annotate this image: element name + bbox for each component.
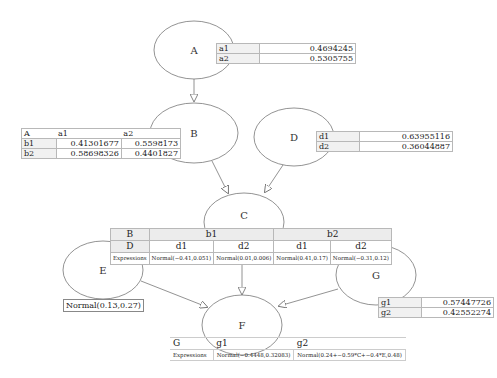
table-header-row: B b1 b2 <box>111 229 392 241</box>
table-header-row: A a1 a2 <box>22 129 181 139</box>
probability-value: 0.4401827 <box>121 149 180 159</box>
column-header: a1 <box>56 129 121 139</box>
state-label: b1 <box>22 139 57 149</box>
state-label: d2 <box>317 142 360 152</box>
expression-value: Normal(−0.41,0.051) <box>149 253 214 265</box>
table-row: d1 0.63955116 <box>317 132 453 142</box>
parent-label: G <box>170 338 213 350</box>
probability-value: 0.58698326 <box>56 149 121 159</box>
expression-value: Normal(0.01,0.006) <box>214 253 274 265</box>
node-G-label: G <box>372 270 380 281</box>
node-B-label: B <box>190 128 197 139</box>
table-row: d2 0.36044887 <box>317 142 453 152</box>
column-header: b2 <box>274 229 392 241</box>
table-row: Expressions Normal(−0.4448,0.32083) Norm… <box>170 350 406 361</box>
probability-value: 0.5305755 <box>260 54 356 64</box>
state-label: a2 <box>217 54 260 64</box>
probability-value: 0.36044887 <box>360 142 453 152</box>
edge-D-C <box>265 165 283 192</box>
state-label: b2 <box>22 149 57 159</box>
column-header: d1 <box>149 241 214 253</box>
expression-value: Normal(−0.31,0.12) <box>330 253 391 265</box>
table-row: a1 0.4694245 <box>217 44 356 54</box>
node-D-label: D <box>290 132 298 143</box>
cpt-table-C: B b1 b2 D d1 d2 d1 d2 Expressions Normal… <box>110 228 392 265</box>
table-row: b1 0.41301677 0.5598173 <box>22 139 181 149</box>
probability-value: 0.42552274 <box>422 308 494 318</box>
table-header-row: G g1 g2 <box>170 338 406 350</box>
state-label: g1 <box>379 298 422 308</box>
expression-box-E: Normal(0.13,0.27) <box>63 299 144 312</box>
column-header: g2 <box>294 338 406 350</box>
node-A-label: A <box>190 45 197 56</box>
state-label: d1 <box>317 132 360 142</box>
node-F-label: F <box>239 320 246 331</box>
probability-value: 0.63955116 <box>360 132 453 142</box>
cpt-table-D: d1 0.63955116 d2 0.36044887 <box>316 131 453 152</box>
edge-E-F <box>141 281 207 307</box>
table-row: g1 0.57447726 <box>379 298 494 308</box>
parent-label: B <box>111 229 150 241</box>
table-row: b2 0.58698326 0.4401827 <box>22 149 181 159</box>
parent-label: A <box>22 129 57 139</box>
column-header: g1 <box>213 338 294 350</box>
probability-value: 0.41301677 <box>56 139 121 149</box>
table-header-row: D d1 d2 d1 d2 <box>111 241 392 253</box>
node-E-label: E <box>99 265 106 276</box>
expressions-label: Expressions <box>170 350 213 361</box>
node-C-label: C <box>240 210 248 221</box>
parent-label: D <box>111 241 150 253</box>
edge-B-C <box>212 161 228 193</box>
cpt-table-A: a1 0.4694245 a2 0.5305755 <box>216 43 356 64</box>
column-header: a2 <box>121 129 180 139</box>
table-row: g2 0.42552274 <box>379 308 494 318</box>
column-header: d2 <box>214 241 274 253</box>
column-header: d1 <box>274 241 331 253</box>
cpt-table-G: g1 0.57447726 g2 0.42552274 <box>378 297 494 318</box>
probability-value: 0.4694245 <box>260 44 356 54</box>
table-row: Expressions Normal(−0.41,0.051) Normal(0… <box>111 253 392 265</box>
probability-value: 0.5598173 <box>121 139 180 149</box>
expression-value: Normal(0.24+−0.59*C+−0.4*E,0.48) <box>294 350 406 361</box>
state-label: a1 <box>217 44 260 54</box>
expressions-label: Expressions <box>111 253 150 265</box>
edge-G-F <box>279 289 338 306</box>
expression-value: Normal(0.41,0.17) <box>274 253 331 265</box>
probability-value: 0.57447726 <box>422 298 494 308</box>
table-row: a2 0.5305755 <box>217 54 356 64</box>
column-header: b1 <box>149 229 274 241</box>
state-label: g2 <box>379 308 422 318</box>
column-header: d2 <box>330 241 391 253</box>
expression-value: Normal(−0.4448,0.32083) <box>213 350 294 361</box>
cpt-table-B: A a1 a2 b1 0.41301677 0.5598173 b2 0.586… <box>21 128 181 159</box>
cpt-table-F: G g1 g2 Expressions Normal(−0.4448,0.320… <box>170 337 406 361</box>
